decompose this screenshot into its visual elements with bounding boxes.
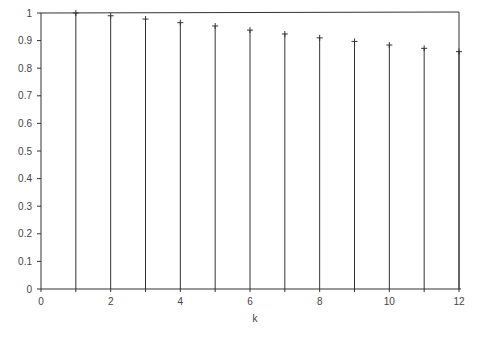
x-tick-label: 10 bbox=[384, 296, 396, 307]
y-tick-label: 0.7 bbox=[18, 90, 32, 101]
y-axis-ticks: 00.10.20.30.40.50.60.70.80.91 bbox=[18, 8, 41, 295]
y-tick-label: 0.9 bbox=[18, 35, 32, 46]
y-tick-label: 1 bbox=[26, 8, 32, 19]
x-tick-label: 6 bbox=[247, 296, 253, 307]
y-tick-label: 0.8 bbox=[18, 63, 32, 74]
x-tick-label: 2 bbox=[108, 296, 114, 307]
y-tick-label: 0.4 bbox=[18, 173, 32, 184]
x-axis-ticks: 024681012 bbox=[38, 289, 465, 307]
top-frame-line bbox=[41, 12, 459, 13]
y-tick-label: 0.1 bbox=[18, 256, 32, 267]
y-tick-label: 0 bbox=[26, 284, 32, 295]
y-tick-label: 0.2 bbox=[18, 228, 32, 239]
y-tick-label: 0.5 bbox=[18, 146, 32, 157]
x-tick-label: 0 bbox=[38, 296, 44, 307]
stem-plot: 00.10.20.30.40.50.60.70.80.91 024681012 … bbox=[0, 0, 477, 337]
x-axis-label: k bbox=[253, 313, 259, 324]
stem-series bbox=[73, 10, 462, 289]
axes bbox=[41, 12, 461, 289]
x-tick-label: 8 bbox=[317, 296, 323, 307]
y-tick-label: 0.6 bbox=[18, 118, 32, 129]
y-tick-label: 0.3 bbox=[18, 201, 32, 212]
x-tick-label: 4 bbox=[178, 296, 184, 307]
x-tick-label: 12 bbox=[453, 296, 465, 307]
